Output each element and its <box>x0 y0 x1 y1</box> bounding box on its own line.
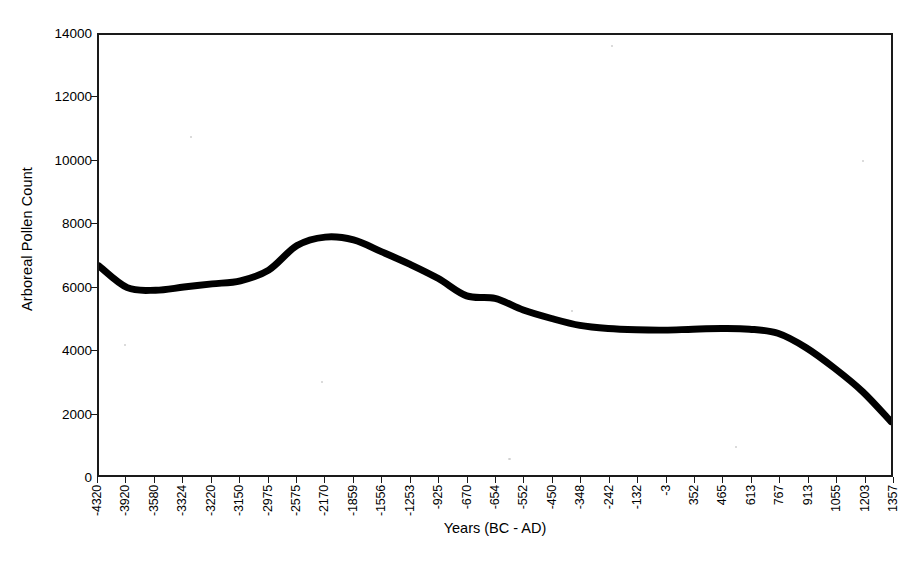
x-axis-tick-label: -552 <box>516 485 530 545</box>
x-axis-tick-mark <box>580 477 581 483</box>
x-axis-tick-mark <box>495 477 496 483</box>
x-axis-tick-label-text: -654 <box>488 485 502 509</box>
x-axis-tick-label: -3150 <box>232 485 246 545</box>
x-axis-tick-label-text: -450 <box>545 485 559 509</box>
y-axis-tick-mark <box>91 160 97 161</box>
x-axis-tick-label: -925 <box>431 485 445 545</box>
x-axis-tick-mark <box>154 477 155 483</box>
pollen-curve-svg <box>99 35 891 475</box>
y-axis-tick-label: 14000 <box>40 26 92 41</box>
x-axis-tick-mark <box>552 477 553 483</box>
x-axis-tick-label-text: 613 <box>744 485 758 505</box>
x-axis-tick-label-text: -1556 <box>374 485 388 516</box>
x-axis-tick-label: 1357 <box>886 485 900 545</box>
x-axis-tick-label-text: -925 <box>431 485 445 509</box>
x-axis-tick-label: -3324 <box>175 485 189 545</box>
x-axis-tick-label-text: -2575 <box>289 485 303 516</box>
y-axis-tick-label: 8000 <box>40 216 92 231</box>
x-axis-tick-label: -4320 <box>90 485 104 545</box>
x-axis-tick-mark <box>381 477 382 483</box>
x-axis-tick-mark <box>268 477 269 483</box>
x-axis-tick-label-text: 352 <box>687 485 701 505</box>
y-axis-tick-mark <box>91 414 97 415</box>
x-axis-tick-mark <box>239 477 240 483</box>
x-axis-tick-mark <box>410 477 411 483</box>
x-axis-tick-label-text: -3580 <box>147 485 161 516</box>
y-axis-title-text: Arboreal Pollen Count <box>19 167 35 311</box>
x-axis-tick-label-text: -3 <box>659 485 673 496</box>
y-axis-tick-mark <box>91 96 97 97</box>
x-axis-tick-label: -3 <box>659 485 673 545</box>
x-axis-tick-label-text: -242 <box>602 485 616 509</box>
y-axis-tick-mark <box>91 287 97 288</box>
x-axis-tick-label: 1055 <box>829 485 843 545</box>
x-axis-tick-label: -1253 <box>403 485 417 545</box>
x-axis-tick-label-text: -4320 <box>90 485 104 516</box>
x-axis-tick-mark <box>637 477 638 483</box>
x-axis-tick-label: 1203 <box>858 485 872 545</box>
x-axis-tick-label-text: -3920 <box>118 485 132 516</box>
x-axis-tick-label: -450 <box>545 485 559 545</box>
x-axis-tick-label: -132 <box>630 485 644 545</box>
x-axis-tick-label-text: -3150 <box>232 485 246 516</box>
x-axis-tick-mark <box>296 477 297 483</box>
x-axis-tick-mark <box>666 477 667 483</box>
x-axis-tick-mark <box>609 477 610 483</box>
x-axis-tick-label-text: 767 <box>772 485 786 505</box>
y-axis-tick-label: 12000 <box>40 89 92 104</box>
y-axis-tick-label: 2000 <box>40 406 92 421</box>
x-axis-tick-mark <box>182 477 183 483</box>
x-axis-tick-label: -2575 <box>289 485 303 545</box>
x-axis-tick-label-text: -670 <box>460 485 474 509</box>
x-axis-tick-label-text: -3220 <box>204 485 218 516</box>
y-axis-tick-mark <box>91 223 97 224</box>
x-axis-tick-mark <box>751 477 752 483</box>
x-axis-tick-mark <box>438 477 439 483</box>
x-axis-tick-label: 352 <box>687 485 701 545</box>
x-axis-tick-mark <box>97 477 98 483</box>
y-axis-tick-mark <box>91 350 97 351</box>
pollen-count-line <box>99 237 891 422</box>
x-axis-tick-label-text: -132 <box>630 485 644 509</box>
x-axis-tick-mark <box>836 477 837 483</box>
x-axis-tick-label-text: 1055 <box>829 485 843 512</box>
x-axis-tick-label: -1556 <box>374 485 388 545</box>
x-axis-tick-label-text: 1203 <box>858 485 872 512</box>
y-axis-tick-label: 0 <box>40 470 92 485</box>
x-axis-tick-label: 465 <box>715 485 729 545</box>
x-axis-tick-mark <box>722 477 723 483</box>
x-axis-tick-label: -3220 <box>204 485 218 545</box>
x-axis-tick-label: -3920 <box>118 485 132 545</box>
x-axis-tick-label-text: -3324 <box>175 485 189 516</box>
plot-area <box>97 33 893 477</box>
x-axis-tick-mark <box>779 477 780 483</box>
x-axis-tick-label: -3580 <box>147 485 161 545</box>
x-axis-tick-label-text: -1253 <box>403 485 417 516</box>
x-axis-tick-label-text: 913 <box>801 485 815 505</box>
y-axis-tick-label: 6000 <box>40 279 92 294</box>
x-axis-tick-label: -348 <box>573 485 587 545</box>
x-axis-tick-mark <box>125 477 126 483</box>
x-axis-tick-label: -242 <box>602 485 616 545</box>
x-axis-tick-label: 613 <box>744 485 758 545</box>
x-axis-tick-mark <box>523 477 524 483</box>
y-axis-tick-labels: 02000400060008000100001200014000 <box>36 0 92 563</box>
x-axis-tick-label-text: -2170 <box>317 485 331 516</box>
x-axis-tick-mark <box>211 477 212 483</box>
x-axis-tick-label-text: 1357 <box>886 485 900 512</box>
x-axis-tick-mark <box>324 477 325 483</box>
x-axis-tick-label: -1859 <box>346 485 360 545</box>
x-axis-tick-label: -2975 <box>261 485 275 545</box>
x-axis-tick-mark <box>865 477 866 483</box>
x-axis-tick-label-text: -348 <box>573 485 587 509</box>
x-axis-tick-label-text: -2975 <box>261 485 275 516</box>
x-axis-tick-mark <box>467 477 468 483</box>
x-axis-tick-label: -2170 <box>317 485 331 545</box>
x-axis-tick-mark <box>694 477 695 483</box>
x-axis-tick-label: 767 <box>772 485 786 545</box>
x-axis-tick-label-text: -1859 <box>346 485 360 516</box>
x-axis-tick-mark <box>808 477 809 483</box>
x-axis-tick-mark <box>893 477 894 483</box>
x-axis-tick-label-text: 465 <box>715 485 729 505</box>
x-axis-tick-label: -654 <box>488 485 502 545</box>
